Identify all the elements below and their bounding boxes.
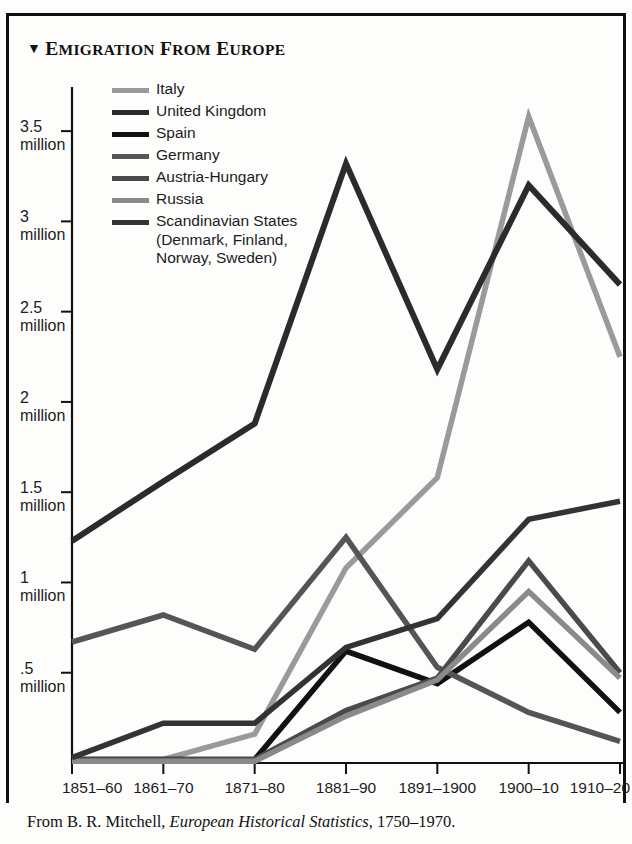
legend-item: Germany <box>112 146 327 165</box>
source-note: From B. R. Mitchell, European Historical… <box>27 812 455 832</box>
legend-swatch-icon <box>112 88 149 93</box>
x-tick-label: 1891–1900 <box>399 779 477 796</box>
legend-item: Italy <box>112 80 327 99</box>
legend-swatch-icon <box>112 198 149 203</box>
legend-swatch-icon <box>112 176 149 181</box>
x-axis-labels: 1851–601861–701871–801881–901891–1900190… <box>62 779 630 796</box>
legend-item: Scandinavian States (Denmark, Finland, N… <box>112 212 327 268</box>
x-tick-label: 1851–60 <box>62 779 123 796</box>
y-tick-label: 3million <box>20 208 65 243</box>
x-tick-label: 1861–70 <box>133 779 194 796</box>
legend-item-label: Scandinavian States (Denmark, Finland, N… <box>156 212 297 268</box>
legend-item: Austria-Hungary <box>112 168 327 187</box>
legend-item-label: Austria-Hungary <box>156 168 268 187</box>
legend-item: Russia <box>112 190 327 209</box>
chart-legend: ItalyUnited KingdomSpainGermanyAustria-H… <box>112 80 327 271</box>
x-tick-label: 1900–10 <box>498 779 559 796</box>
y-axis-labels: 3.5million3million2.5million2million1.5m… <box>20 118 65 695</box>
legend-item-label: Spain <box>156 124 196 143</box>
legend-swatch-icon <box>112 154 149 159</box>
y-tick-label: 1million <box>20 569 65 604</box>
y-tick-label: 1.5million <box>20 479 65 514</box>
x-tick-label: 1871–80 <box>224 779 285 796</box>
source-prefix: From B. R. Mitchell, <box>27 812 170 831</box>
legend-item: United Kingdom <box>112 102 327 121</box>
y-tick-label: 2million <box>20 389 65 424</box>
y-tick-label: .5million <box>20 660 65 695</box>
legend-swatch-icon <box>112 132 149 137</box>
legend-item-label: Germany <box>156 146 220 165</box>
figure-panel: ▼EMIGRATION FROM EUROPE 1851–601861–7018… <box>0 0 632 844</box>
y-tick-label: 2.5million <box>20 299 65 334</box>
legend-item-label: Italy <box>156 80 184 99</box>
legend-item-label: Russia <box>156 190 203 209</box>
y-tick-label: 3.5million <box>20 118 65 153</box>
source-suffix: , 1750–1970. <box>369 812 456 831</box>
legend-swatch-icon <box>112 110 149 115</box>
series-line-spain <box>72 622 620 759</box>
x-tick-label: 1881–90 <box>316 779 377 796</box>
x-tick-label: 1910–20 <box>570 779 631 796</box>
legend-item-label: United Kingdom <box>156 102 266 121</box>
legend-swatch-icon <box>112 220 149 225</box>
legend-item: Spain <box>112 124 327 143</box>
source-work-title: European Historical Statistics <box>170 812 369 831</box>
